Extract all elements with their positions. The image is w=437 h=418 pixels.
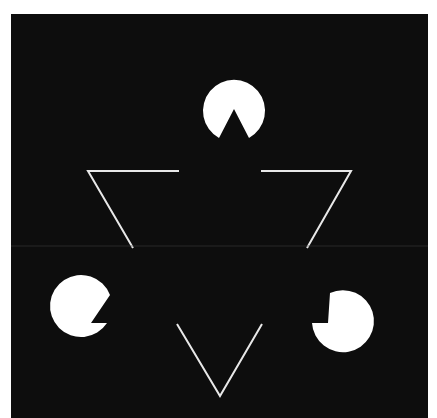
outline-corner-top-right xyxy=(261,171,351,248)
outline-corner-top-left xyxy=(88,171,179,248)
kanizsa-figure xyxy=(0,0,437,418)
outline-corner-bottom xyxy=(177,324,262,396)
pacman-top xyxy=(203,80,265,138)
pacman-bottom-left xyxy=(50,275,110,337)
pacman-bottom-right xyxy=(312,290,374,352)
